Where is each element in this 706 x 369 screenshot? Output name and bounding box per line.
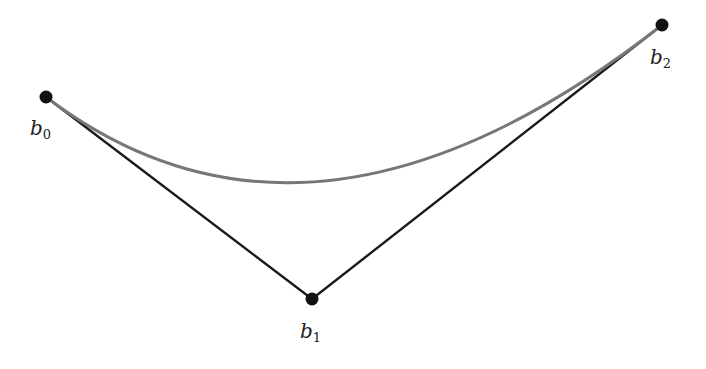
bezier-curve xyxy=(46,25,662,183)
control-point-b0 xyxy=(40,91,53,104)
bezier-diagram: b0b1b2 xyxy=(0,0,706,369)
point-label-b1: b1 xyxy=(300,319,321,345)
control-point-b2 xyxy=(656,19,669,32)
point-label-b0: b0 xyxy=(30,116,51,142)
control-points: b0b1b2 xyxy=(30,19,671,346)
point-label-b2: b2 xyxy=(650,45,671,71)
control-polygon xyxy=(46,25,662,299)
control-point-b1 xyxy=(306,293,319,306)
